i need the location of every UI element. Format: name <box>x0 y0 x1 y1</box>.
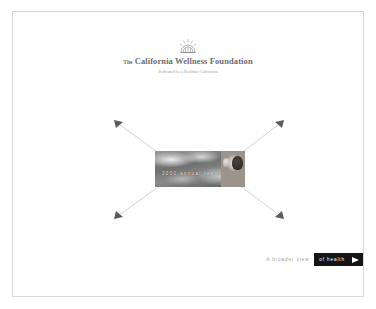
arrow-right-icon <box>352 257 359 263</box>
ray-top-right <box>239 121 283 155</box>
of-health-button[interactable]: of health <box>314 253 363 266</box>
portrait-photo-icon <box>221 151 245 187</box>
arrow-down-left-icon <box>114 211 123 219</box>
page-frame: The California Wellness Foundation Dedic… <box>12 11 364 297</box>
banner-caption: 2000 annual report <box>162 171 224 176</box>
arrow-down-right-icon <box>275 211 284 219</box>
of-health-button-label: of health <box>319 257 345 262</box>
hero-stage: 2000 annual report <box>103 117 293 222</box>
wordmark-article: The <box>123 59 132 65</box>
wordmark-name: California Wellness Foundation <box>135 56 253 66</box>
ray-bottom-left <box>115 185 161 218</box>
annual-report-banner[interactable]: 2000 annual report <box>155 151 245 187</box>
footer-nav: A broader view of health <box>266 253 363 266</box>
arrow-up-right-icon <box>275 120 284 128</box>
ray-top-left <box>115 121 161 155</box>
organization-wordmark: The California Wellness Foundation <box>13 56 363 67</box>
ray-bottom-right <box>239 185 283 218</box>
arrow-up-left-icon <box>114 120 123 128</box>
footer-nav-prefix: A broader view <box>266 253 314 266</box>
sunburst-emblem-icon <box>177 37 199 54</box>
masthead: The California Wellness Foundation Dedic… <box>13 37 363 75</box>
organization-tagline: Dedicated to a Healthier California <box>13 70 363 75</box>
